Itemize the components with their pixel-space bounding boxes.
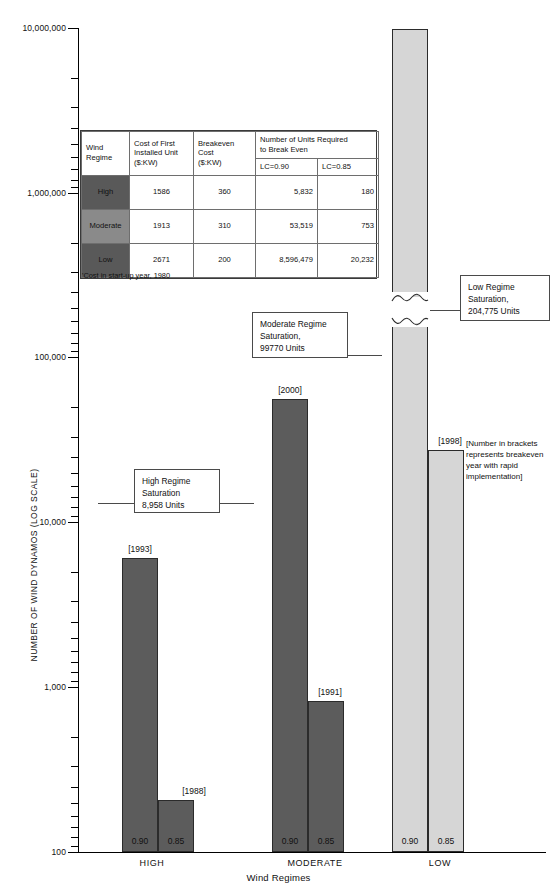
x-category-low: LOW (380, 858, 500, 868)
y-tick-minor (71, 803, 79, 804)
table-cell-cost-high: 1586 (130, 175, 194, 209)
callout-moderate-line1: Moderate Regime (260, 319, 340, 331)
bar-low-lc090-upper-segment (392, 29, 428, 297)
table-header-units-group: Number of Units Required to Break Even (256, 132, 379, 159)
y-tick-minor (71, 107, 79, 108)
y-tick-minor (71, 572, 79, 573)
bar-low-lc090-lower-segment (392, 323, 428, 852)
table-cell-cost-moderate: 1913 (130, 209, 194, 243)
leader-line-moderate-right (348, 355, 382, 356)
y-tick-major-10000 (68, 522, 79, 523)
y-tick-minor (71, 601, 79, 602)
table-cell-lc085-moderate: 753 (318, 209, 379, 243)
y-tick-minor (71, 321, 79, 322)
y-tick-minor (71, 622, 79, 623)
x-axis-line (78, 852, 546, 853)
brackets-explanation-note: [Number in brackets represents breakeven… (466, 438, 557, 482)
y-tick-minor (71, 457, 79, 458)
bar-value-low-lc090: 0.90 (392, 836, 428, 846)
y-tick-minor (71, 638, 79, 639)
bar-value-moderate-lc090: 0.90 (272, 836, 308, 846)
y-tick-major-1000 (68, 687, 79, 688)
table-cell-breakeven-high: 360 (194, 175, 256, 209)
y-tick-minor (71, 473, 79, 474)
y-tick-minor (71, 846, 79, 847)
wind-regime-data-table: Wind Regime Cost of First Installed Unit… (80, 130, 377, 279)
y-tick-label-10000: 10,000 (39, 518, 66, 527)
callout-low-line1: Low Regime (468, 282, 542, 294)
bar-moderate-lc090 (272, 399, 308, 852)
y-tick-minor (71, 662, 79, 663)
y-tick-minor (71, 497, 79, 498)
bar-value-low-lc085: 0.85 (428, 836, 464, 846)
bar-year-high-lc090: [1993] (110, 544, 170, 554)
leader-line-high-left (98, 503, 134, 504)
y-tick-label-10000000: 10,000,000 (22, 24, 66, 33)
callout-moderate-line2: Saturation, (260, 331, 340, 343)
x-category-high: HIGH (92, 858, 212, 868)
table-header-breakeven: Breakeven Cost ($:KW) (194, 132, 256, 176)
bar-break-wave-lower-icon (391, 316, 430, 332)
bar-year-moderate-lc090: [2000] (260, 385, 320, 395)
y-tick-minor (71, 672, 79, 673)
bar-value-high-lc090: 0.90 (122, 836, 158, 846)
table-row: Moderate 1913 310 53,519 753 (82, 209, 379, 243)
y-tick-minor (71, 180, 79, 181)
y-tick-minor (71, 343, 79, 344)
y-tick-minor (71, 787, 79, 788)
table-cell-lc090-moderate: 53,519 (256, 209, 318, 243)
bar-high-lc090 (122, 558, 158, 852)
leader-line-low-left (430, 310, 460, 311)
bar-moderate-lc085 (308, 701, 344, 852)
table-header-regime: Wind Regime (82, 132, 130, 176)
table-cell-breakeven-moderate: 310 (194, 209, 256, 243)
table-row: High 1586 360 5,832 180 (82, 175, 379, 209)
callout-high-line2: Saturation (142, 488, 212, 500)
y-tick-minor (71, 651, 79, 652)
table-footnote: 'Cost in start-up year, 1980 (82, 271, 170, 280)
y-tick-minor (71, 437, 79, 438)
table-header-cost-first: Cost of First Installed Unit ($:KW) (130, 132, 194, 176)
bar-break-wave-upper-icon (391, 288, 430, 304)
y-tick-label-100: 100 (52, 848, 66, 857)
callout-high-line1: High Regime (142, 476, 212, 488)
y-tick-minor (71, 407, 79, 408)
y-axis-title: NUMBER OF WIND DYNAMOS (LOG SCALE) (29, 435, 39, 695)
x-axis-title: Wind Regimes (0, 872, 557, 883)
y-tick-minor (71, 243, 79, 244)
y-tick-minor (71, 737, 79, 738)
y-tick-major-10000000 (68, 28, 79, 29)
table-cell-lc085-low: 20,232 (318, 243, 379, 277)
y-tick-minor (71, 169, 79, 170)
bar-year-high-lc085: [1988] (164, 786, 224, 796)
callout-high-line3: 8,958 Units (142, 500, 212, 512)
y-tick-minor (71, 507, 79, 508)
leader-line-high-right (220, 503, 254, 504)
y-tick-minor (71, 128, 79, 129)
y-tick-minor (71, 516, 79, 517)
y-tick-minor (71, 272, 79, 273)
y-tick-minor (71, 144, 79, 145)
table-header-lc085: LC=0.85 (318, 158, 379, 175)
table-cell-regime-high: High (82, 175, 130, 209)
y-tick-major-100000 (68, 357, 79, 358)
table-cell-lc090-low: 8,596,479 (256, 243, 318, 277)
callout-low-line3: 204,775 Units (468, 306, 542, 318)
callout-moderate-line3: 99770 Units (260, 343, 340, 355)
y-tick-label-100000: 100,000 (35, 353, 66, 362)
x-category-moderate: MODERATE (250, 858, 380, 868)
y-tick-minor (71, 681, 79, 682)
y-axis-line (78, 28, 79, 852)
y-tick-minor (71, 486, 79, 487)
y-tick-minor (71, 827, 79, 828)
y-tick-minor (71, 837, 79, 838)
y-tick-minor (71, 351, 79, 352)
y-tick-minor (71, 187, 79, 188)
table-cell-regime-moderate: Moderate (82, 209, 130, 243)
table-header-row-1: Wind Regime Cost of First Installed Unit… (82, 132, 379, 159)
table-header-lc090: LC=0.90 (256, 158, 318, 175)
bar-low-lc085 (428, 450, 464, 852)
table-cell-breakeven-low: 200 (194, 243, 256, 277)
y-tick-major-1000000 (68, 193, 79, 194)
y-tick-minor (71, 766, 79, 767)
